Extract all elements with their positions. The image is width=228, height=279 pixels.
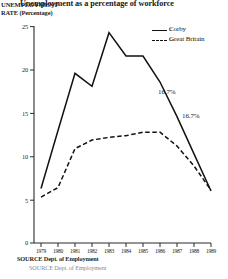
legend-item-great-britain: Gr Great Britain <box>152 36 228 46</box>
source-note-duplicate: SOURCE Dept. of Employment <box>29 264 106 271</box>
legend-label-corby: Corby <box>169 25 186 33</box>
y-tick-label-25: 25 <box>12 23 28 30</box>
y-tick-label-0: 0 <box>12 239 28 246</box>
y-tick-marks <box>30 27 34 243</box>
x-tick-marks <box>41 243 211 247</box>
source-note: SOURCE Dept. of Employment <box>17 255 98 262</box>
y-tick-label-20: 20 <box>12 66 28 73</box>
x-tick-label-1989: 1989 <box>199 248 223 254</box>
y-tick-label-10: 10 <box>12 153 28 160</box>
y-tick-label-5: 5 <box>12 197 28 204</box>
chart-figure: Unemployment as a percentage of workforc… <box>0 0 228 279</box>
legend-swatch-solid-icon <box>152 30 167 31</box>
series-line-great-britain <box>41 132 211 197</box>
y-tick-label-15: 15 <box>12 110 28 117</box>
chart-legend: C Corby Gr Great Britain <box>152 26 228 46</box>
annotation-rate-2: 16.7% <box>182 112 200 120</box>
legend-label-great-britain: Great Britain <box>169 35 204 43</box>
annotation-rate-1: 16.7% <box>158 88 176 96</box>
legend-swatch-dashed-icon <box>152 40 167 41</box>
